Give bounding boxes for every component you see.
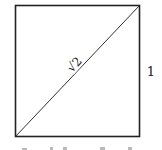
- caption-cropped: [22, 147, 132, 150]
- unit-square-diagram: √2 1: [0, 0, 162, 150]
- side-label: 1: [147, 64, 155, 79]
- diagonal-label: √2: [64, 54, 85, 75]
